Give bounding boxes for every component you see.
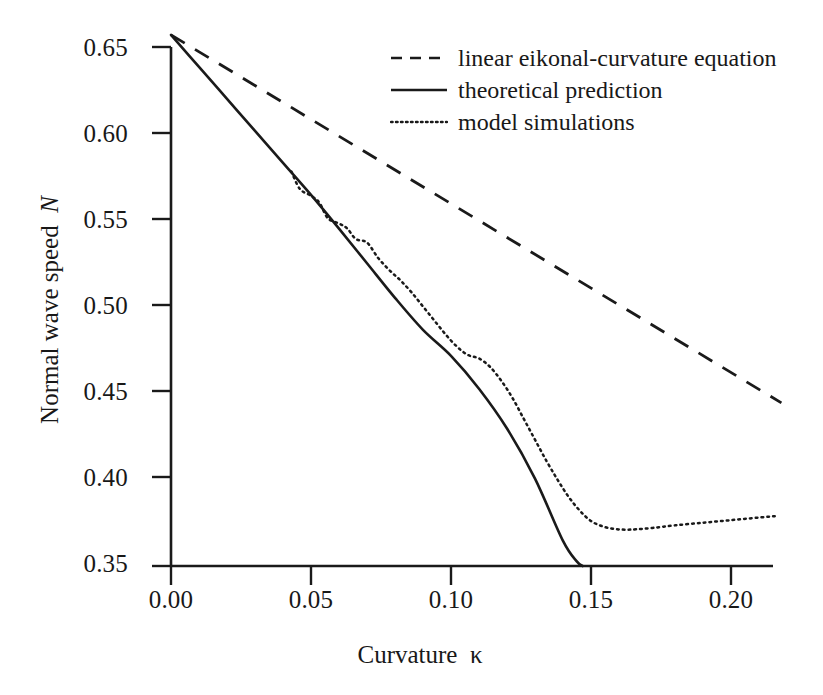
solid-line-icon [390,80,448,100]
legend: linear eikonal-curvature equation theore… [390,42,810,138]
legend-item-model-simulations: model simulations [390,106,810,138]
dashed-line-icon [390,48,448,68]
legend-item-linear-eikonal: linear eikonal-curvature equation [390,42,810,74]
dotted-line-icon [390,112,448,132]
legend-label: theoretical prediction [458,78,663,102]
figure-canvas: Normal wave speed N Curvature κ 0.65 0.6… [0,0,823,695]
legend-item-theoretical-prediction: theoretical prediction [390,74,810,106]
legend-label: model simulations [458,110,635,134]
legend-label: linear eikonal-curvature equation [458,46,777,70]
